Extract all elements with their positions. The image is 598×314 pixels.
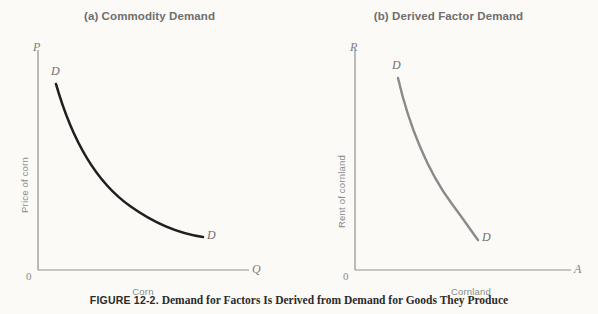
panel-b-curve-label-bottom: D <box>482 230 491 245</box>
panel-a-demand-curve <box>56 84 203 237</box>
figure-number: FIGURE 12-2. <box>90 294 159 306</box>
panel-a-origin-label: 0 <box>26 270 32 282</box>
figure-container: (a) Commodity Demand (b) Derived Factor … <box>0 0 598 314</box>
panel-b-origin-label: 0 <box>343 270 349 282</box>
panel-b-y-axis-label: Rent of cornland <box>336 155 347 228</box>
panel-b-x-axis-tip: A <box>574 262 581 277</box>
figure-plot-area <box>0 0 598 314</box>
panel-a-x-axis-tip: Q <box>252 262 261 277</box>
panel-b-axes <box>355 50 571 270</box>
figure-caption-text: Demand for Factors Is Derived from Deman… <box>162 294 508 306</box>
panel-a-y-axis-tip: P <box>33 40 40 55</box>
figure-caption: FIGURE 12-2. Demand for Factors Is Deriv… <box>0 294 598 306</box>
panel-b-y-axis-tip: R <box>350 40 357 55</box>
panel-a-curve-label-bottom: D <box>207 228 216 243</box>
panel-b-demand-curve <box>398 78 478 240</box>
panel-b-curve-label-top: D <box>392 58 401 73</box>
panel-a-axes <box>38 50 249 270</box>
panel-a-curve-label-top: D <box>51 64 60 79</box>
panel-a-y-axis-label: Price of corn <box>19 157 30 213</box>
